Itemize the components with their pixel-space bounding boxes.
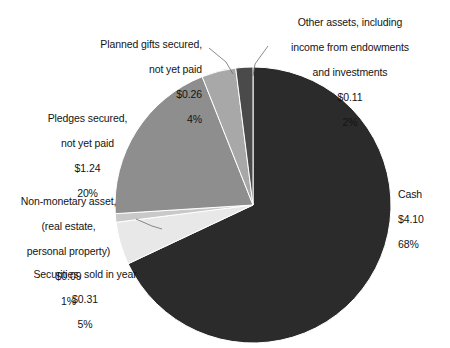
non-monetary-label-line1: Non-monetary asset, [1, 195, 136, 207]
securities-value: $0.31 [10, 293, 160, 305]
other-assets-percent: 2% [252, 116, 448, 128]
pie-chart-figure: Planned gifts secured, not yet paid $0.2… [0, 0, 450, 348]
pledges-value: $1.24 [15, 162, 160, 174]
non-monetary-label-line2: (real estate, [1, 220, 136, 232]
slice-label-other-assets: Other assets, including income from endo… [252, 4, 448, 140]
other-assets-label-line1: Other assets, including [252, 16, 448, 28]
securities-label-line1: Securities, sold in year [10, 268, 160, 280]
planned-gifts-label-line1: Planned gifts secured, [42, 38, 202, 50]
cash-label-line1: Cash [398, 188, 450, 200]
other-assets-label-line2: income from endowments [252, 41, 448, 53]
securities-percent: 5% [10, 318, 160, 330]
planned-gifts-label-line2: not yet paid [42, 63, 202, 75]
slice-label-securities: Securities, sold in year $0.31 5% [10, 256, 160, 343]
cash-percent: 68% [398, 238, 450, 250]
pledges-label-line2: not yet paid [15, 137, 160, 149]
cash-value: $4.10 [398, 213, 450, 225]
pledges-label-line1: Pledges secured, [15, 112, 160, 124]
planned-gifts-value: $0.26 [42, 88, 202, 100]
other-assets-value: $0.11 [252, 91, 448, 103]
other-assets-label-line3: and investments [252, 66, 448, 78]
slice-label-cash: Cash $4.10 68% [398, 176, 450, 263]
